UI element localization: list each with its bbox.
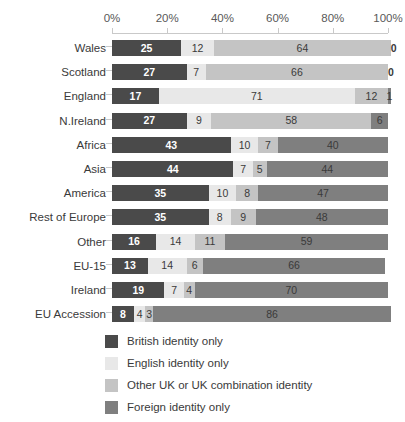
bar-segment: 4	[134, 306, 145, 322]
bar-segment: 9	[187, 113, 212, 129]
bar-segment-value: 13	[124, 260, 136, 271]
bar-segment: 25	[112, 40, 181, 56]
bar-segment: 47	[258, 185, 388, 201]
x-axis-tick	[388, 28, 389, 33]
x-axis-tick	[333, 28, 334, 33]
bar-segment: 7	[233, 161, 252, 177]
bar-segment-value: 70	[286, 285, 298, 296]
category-label-wales: Wales	[0, 36, 106, 60]
bar-segment: 59	[225, 234, 388, 250]
bar-segment-value: 17	[130, 91, 142, 102]
bar-segment-value: 14	[170, 236, 182, 247]
bar-segment-value: 27	[143, 67, 155, 78]
bar-segment-value: 7	[265, 140, 271, 151]
category-label-n-ireland: N.Ireland	[0, 109, 106, 133]
bar-segment-value: 43	[165, 140, 177, 151]
bar-segment: 0	[388, 64, 394, 80]
bar-segment-value: 35	[154, 188, 166, 199]
bar-segment-value: 35	[154, 212, 166, 223]
legend-item[interactable]: British identity only	[0, 330, 405, 352]
bar-segment: 14	[156, 234, 195, 250]
x-axis-tick-label: 60%	[266, 12, 289, 24]
category-label-other: Other	[0, 230, 106, 254]
bar-segment: 8	[236, 185, 258, 201]
category-label-america: America	[0, 181, 106, 205]
legend-item[interactable]: Foreign identity only	[0, 396, 405, 418]
bar-segment-value: 16	[128, 236, 140, 247]
bar-segment-value: 19	[132, 285, 144, 296]
x-axis-tick-labels: 0%20%40%60%80%100%	[0, 12, 405, 30]
bar-segment: 44	[112, 161, 233, 177]
bar-segment: 8	[112, 306, 134, 322]
bar-segment: 10	[209, 185, 237, 201]
bar-segment: 3	[145, 306, 153, 322]
bar-segment: 1	[388, 88, 391, 104]
legend-item[interactable]: Other UK or UK combination identity	[0, 374, 405, 396]
bar-segment: 0	[391, 40, 397, 56]
bar-segment-value: 44	[167, 164, 179, 175]
bar-segment: 71	[159, 88, 355, 104]
bar-segment-value: 12	[192, 43, 204, 54]
legend-label: Other UK or UK combination identity	[127, 379, 312, 391]
chart-row: Scotland277660	[0, 60, 405, 84]
stacked-bar: 84386	[112, 306, 388, 322]
chart-row: Ireland197470	[0, 278, 405, 302]
chart-row: Rest of Europe358948	[0, 205, 405, 229]
bar-segment: 43	[112, 137, 231, 153]
legend-label: Foreign identity only	[127, 401, 230, 413]
chart-rows: Wales2512640Scotland277660England1771121…	[0, 36, 405, 326]
bar-segment-value: 66	[288, 260, 300, 271]
bar-segment: 66	[203, 258, 385, 274]
chart-row: Africa4310740	[0, 133, 405, 157]
legend-item[interactable]: English identity only	[0, 352, 405, 374]
bar-segment-value: 4	[137, 309, 143, 320]
bar-segment: 19	[112, 282, 164, 298]
bar-segment: 14	[148, 258, 187, 274]
bar-segment-value: 6	[192, 260, 198, 271]
bar-segment-value: 6	[377, 115, 383, 126]
bar-segment-value: 3	[146, 309, 152, 320]
bar-segment-value: 14	[161, 260, 173, 271]
category-label-asia: Asia	[0, 157, 106, 181]
bar-segment-value: 25	[141, 43, 153, 54]
chart-row: Wales2512640	[0, 36, 405, 60]
bar-segment: 66	[206, 64, 388, 80]
legend-color-swatch	[105, 335, 118, 348]
bar-segment: 10	[231, 137, 259, 153]
bar-segment-value: 0	[388, 67, 394, 78]
category-label-rest-of-europe: Rest of Europe	[0, 205, 106, 229]
bar-segment-value: 7	[240, 164, 246, 175]
bar-segment: 70	[195, 282, 388, 298]
x-axis-line	[112, 33, 388, 34]
category-label-africa: Africa	[0, 133, 106, 157]
stacked-bar: 1314666	[112, 258, 388, 274]
bar-segment-value: 8	[244, 188, 250, 199]
chart-row: Other16141159	[0, 230, 405, 254]
bar-segment-value: 66	[291, 67, 303, 78]
bar-segment: 7	[187, 64, 206, 80]
bar-segment: 40	[278, 137, 388, 153]
stacked-bar: 358948	[112, 209, 388, 225]
x-axis-tick-label: 80%	[321, 12, 344, 24]
bar-segment-value: 0	[391, 43, 397, 54]
bar-segment: 16	[112, 234, 156, 250]
bar-segment-value: 86	[266, 309, 278, 320]
stacked-bar: 277660	[112, 64, 388, 80]
bar-segment: 6	[371, 113, 388, 129]
stacked-bar: 1771121	[112, 88, 388, 104]
bar-segment: 86	[153, 306, 390, 322]
bar-segment: 12	[181, 40, 214, 56]
stacked-bar: 197470	[112, 282, 388, 298]
bar-segment-value: 58	[286, 115, 298, 126]
bar-segment-value: 59	[301, 236, 313, 247]
chart-row: Asia447544	[0, 157, 405, 181]
bar-segment: 27	[112, 113, 187, 129]
stacked-bar: 4310740	[112, 137, 388, 153]
category-label-england: England	[0, 84, 106, 108]
x-axis-tick-label: 40%	[211, 12, 234, 24]
legend-color-swatch	[105, 357, 118, 370]
chart-row: EU-151314666	[0, 254, 405, 278]
x-axis-tick	[167, 28, 168, 33]
bar-segment-value: 1	[386, 91, 392, 102]
bar-segment-value: 5	[257, 164, 263, 175]
